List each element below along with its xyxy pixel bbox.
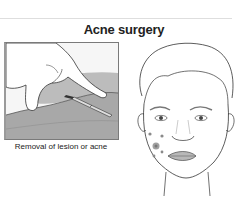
illustration-caption: Removal of lesion or acne — [0, 142, 122, 151]
face-illustration — [128, 38, 244, 196]
face-icon — [128, 38, 244, 196]
top-divider — [0, 18, 232, 19]
surgery-illustration — [4, 42, 119, 140]
acne-spots — [148, 132, 163, 157]
page-title: Acne surgery — [0, 22, 248, 37]
hand-scalpel-icon — [6, 43, 118, 139]
